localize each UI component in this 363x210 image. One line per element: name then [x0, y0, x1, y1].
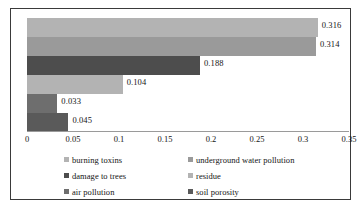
- bar-air-pollution[interactable]: [27, 94, 57, 113]
- bar-value-label: 0.104: [127, 77, 147, 87]
- bar-value-label: 0.314: [320, 39, 340, 49]
- legend-swatch-icon: [188, 173, 193, 178]
- chart-figure: 0.316 0.314 0.188 0.104 0.033 0.045 0 0.…: [10, 8, 351, 200]
- legend-swatch-icon: [64, 157, 69, 162]
- bar-soil-porosity[interactable]: [27, 113, 68, 132]
- x-tick-label: 0.2: [206, 134, 217, 144]
- legend-label: air pollution: [72, 187, 114, 197]
- bar-damage-to-trees[interactable]: [27, 56, 200, 75]
- x-tick-label: 0.35: [342, 134, 357, 144]
- chart-legend: burning toxins underground water polluti…: [11, 152, 352, 200]
- legend-item-damage-to-trees[interactable]: damage to trees: [64, 169, 126, 182]
- x-axis-tick-labels: 0 0.05 0.1 0.15 0.2 0.25 0.3 0.35: [11, 134, 352, 148]
- bar-underground-water-pollution[interactable]: [27, 37, 316, 56]
- x-tick-label: 0.05: [66, 134, 81, 144]
- legend-swatch-icon: [64, 173, 69, 178]
- legend-item-residue[interactable]: residue: [188, 169, 221, 182]
- legend-label: soil porosity: [196, 187, 239, 197]
- plot-area: 0.316 0.314 0.188 0.104 0.033 0.045 0 0.…: [11, 9, 352, 133]
- legend-swatch-icon: [64, 189, 69, 194]
- bar-value-label: 0.045: [72, 115, 92, 125]
- x-tick-label: 0.15: [158, 134, 173, 144]
- x-tick-label: 0.25: [250, 134, 265, 144]
- x-tick-label: 0: [25, 134, 29, 144]
- bar-burning-toxins[interactable]: [27, 18, 318, 37]
- legend-swatch-icon: [188, 189, 193, 194]
- legend-label: residue: [196, 171, 221, 181]
- legend-swatch-icon: [188, 157, 193, 162]
- bar-value-label: 0.188: [204, 58, 224, 68]
- legend-item-soil-porosity[interactable]: soil porosity: [188, 185, 239, 198]
- legend-item-burning-toxins[interactable]: burning toxins: [64, 153, 122, 166]
- x-tick-label: 0.1: [114, 134, 125, 144]
- legend-item-air-pollution[interactable]: air pollution: [64, 185, 114, 198]
- bar-value-label: 0.316: [322, 20, 342, 30]
- legend-label: underground water pollution: [196, 155, 294, 165]
- bar-residue[interactable]: [27, 75, 123, 94]
- legend-item-underground-water-pollution[interactable]: underground water pollution: [188, 153, 294, 166]
- x-tick-label: 0.3: [298, 134, 309, 144]
- bar-value-label: 0.033: [61, 96, 81, 106]
- x-axis-line: [27, 131, 349, 132]
- legend-label: burning toxins: [72, 155, 122, 165]
- legend-label: damage to trees: [72, 171, 126, 181]
